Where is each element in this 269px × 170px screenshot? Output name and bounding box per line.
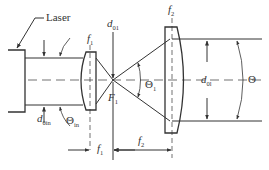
theta-in-main: Θ	[66, 114, 74, 126]
F1-label: F1	[108, 92, 118, 106]
laser-label: Laser	[46, 12, 70, 23]
d0in-sub: 0in	[43, 119, 51, 126]
f2-dim-label: f2	[138, 135, 144, 149]
d0l-sub: 0l	[207, 80, 212, 87]
d0l-label: d0l	[201, 74, 212, 88]
d01-label: d01	[107, 18, 119, 32]
f1-top-label: f1	[87, 33, 93, 47]
d01-sub: 01	[113, 24, 120, 31]
theta1-sub: 1	[153, 85, 156, 92]
ray-upper-out	[113, 39, 170, 80]
ray-upper-in	[96, 58, 113, 80]
d0in-label: d0in	[37, 113, 51, 127]
theta-in-label: Θin	[66, 115, 79, 129]
laser-leader	[17, 18, 44, 48]
laser-body	[8, 50, 25, 112]
theta-in-arrow-top	[60, 38, 70, 56]
lens-f1	[81, 52, 96, 110]
theta-in-sub: in	[74, 121, 79, 128]
f2-top-sub: 2	[171, 10, 174, 17]
F1-sub: 1	[115, 98, 118, 105]
f1-dim-label: f1	[97, 143, 103, 157]
theta1-main: Θ	[145, 78, 153, 90]
theta1-label: Θ1	[145, 79, 156, 93]
F1-main: F	[108, 91, 115, 103]
f1-top-sub: 1	[90, 39, 93, 46]
ray-lower-out	[113, 80, 170, 121]
f2-dim-sub: 2	[141, 141, 144, 148]
theta-out-label: Θ	[248, 74, 256, 85]
beam-expander-diagram	[0, 0, 269, 170]
theta1-arc	[138, 63, 141, 97]
f1-dim-sub: 1	[100, 149, 103, 156]
f2-top-label: f2	[168, 4, 174, 18]
